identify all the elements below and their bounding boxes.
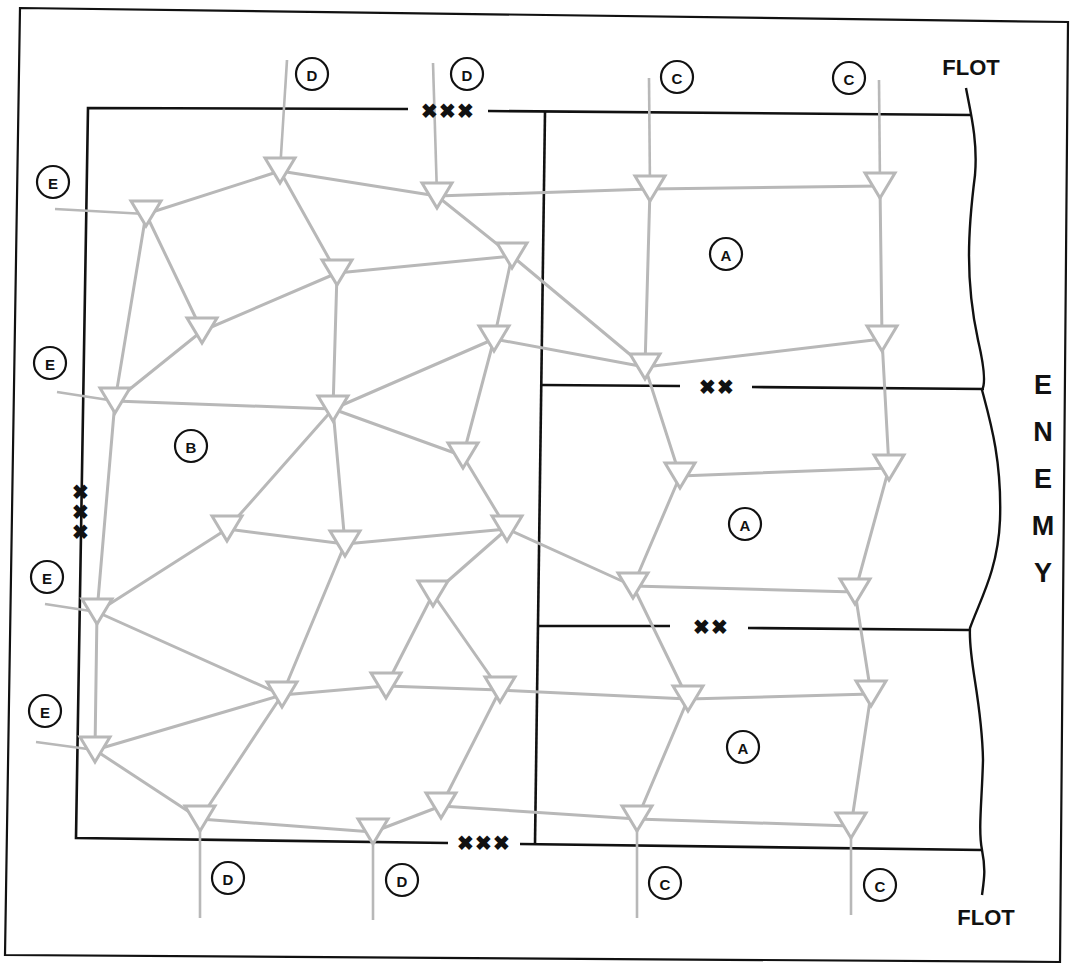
barrier-link [202, 273, 337, 331]
barrier-link [637, 699, 688, 819]
corps-boundary-top-right [488, 111, 972, 115]
barrier-link [333, 273, 337, 409]
barrier-link [333, 409, 463, 456]
barrier-link [282, 686, 386, 695]
barrier-link [97, 612, 282, 695]
callout-d: D [212, 862, 244, 894]
barrier-link [512, 256, 645, 367]
enemy-label: E N E M Y [1032, 370, 1055, 588]
callout-e: E [31, 561, 63, 593]
barrier-link [282, 544, 345, 695]
division-boundary-upper-left [542, 385, 680, 386]
barrier-link [645, 367, 680, 476]
obstacle-triangle-icon [448, 443, 478, 468]
enemy-letter: E [1034, 464, 1052, 494]
callout-letter: C [672, 70, 683, 87]
barrier-link [337, 256, 512, 273]
callout-letter: D [462, 67, 473, 84]
barrier-link [851, 694, 871, 826]
callout-letter: A [721, 247, 732, 264]
callout-letter: E [42, 570, 52, 587]
barrier-network-links [95, 171, 889, 832]
barrier-link [680, 468, 889, 476]
callout-letter: E [45, 356, 55, 373]
callout-a: A [729, 508, 761, 540]
barrier-link [441, 806, 637, 819]
echelon-marker-x: ✖ [72, 521, 90, 543]
callout-letter: D [397, 873, 408, 890]
barrier-link [95, 750, 200, 819]
barrier-link [146, 214, 202, 331]
callout-c: C [649, 867, 681, 899]
barrier-link [633, 586, 688, 699]
corps-boundary-top-left [76, 108, 448, 843]
barrier-link [463, 339, 494, 456]
approach-route-line [879, 80, 880, 186]
obstacle-triangle-icon [418, 581, 448, 606]
callout-letter: D [307, 67, 318, 84]
barrier-link [227, 409, 333, 529]
flot-label-bottom: FLOT [957, 905, 1015, 930]
barrier-link [645, 189, 650, 367]
division-rear-boundary [535, 112, 545, 844]
callout-letter: A [740, 517, 751, 534]
callout-letter: A [738, 740, 749, 757]
callout-letter: C [660, 876, 671, 893]
barrier-link [95, 695, 282, 750]
barrier-link [97, 401, 115, 612]
enemy-letter: Y [1034, 558, 1052, 588]
callout-a: A [710, 238, 742, 270]
callout-a: A [727, 731, 759, 763]
barrier-link [855, 592, 871, 694]
barrier-link [200, 695, 282, 819]
callout-letter: D [223, 871, 234, 888]
barrier-link [333, 409, 345, 544]
barrier-link [97, 529, 227, 612]
callout-b: B [175, 430, 207, 462]
callout-d: D [296, 58, 328, 90]
enemy-letter: N [1033, 417, 1053, 447]
barrier-link [507, 529, 633, 586]
enemy-letter: M [1032, 511, 1055, 541]
callout-d: D [386, 864, 418, 896]
echelon-marker-corps-bottom: ✖✖✖ [457, 832, 511, 854]
division-boundary-upper-right [752, 387, 984, 389]
barrier-plan-diagram: ✖✖✖✖✖✖✖✖✖✖✖✖✖ DDCCEEEEAAABDDCC FLOT FLOT… [0, 0, 1074, 974]
barrier-link [345, 529, 507, 544]
callout-e: E [29, 695, 61, 727]
barrier-link [650, 186, 880, 189]
approach-route-line [55, 209, 146, 214]
barrier-link [115, 214, 146, 401]
barrier-link [386, 686, 500, 690]
callout-letter: B [186, 439, 197, 456]
boundary-echelon-markers: ✖✖✖✖✖✖✖✖✖✖✖✖✖ [72, 100, 735, 854]
barrier-link [441, 690, 500, 806]
callout-letter: E [48, 175, 58, 192]
corps-boundary-bottom-right [520, 844, 982, 850]
callout-letter: C [875, 878, 886, 895]
barrier-link [882, 339, 889, 468]
callout-c: C [864, 869, 896, 901]
flot-line [966, 88, 1000, 895]
barrier-link [645, 339, 882, 367]
echelon-marker-division-lower: ✖✖ [693, 616, 729, 638]
flot-label-top: FLOT [942, 55, 1000, 80]
echelon-marker-division-upper: ✖✖ [699, 376, 735, 398]
barrier-link [200, 819, 373, 832]
echelon-marker-x: ✖ [72, 501, 90, 523]
barrier-link [280, 171, 437, 196]
approach-route-line [433, 63, 437, 196]
obstacle-triangle-icon [479, 326, 509, 351]
barrier-link [688, 694, 871, 699]
barrier-link [633, 476, 680, 586]
barrier-link [146, 171, 280, 214]
barrier-link [494, 339, 645, 367]
barrier-link [637, 819, 851, 826]
callout-letter: E [40, 704, 50, 721]
callout-c: C [833, 62, 865, 94]
callout-e: E [37, 166, 69, 198]
barrier-link [333, 339, 494, 409]
enemy-letter: E [1034, 370, 1052, 400]
barrier-link [95, 612, 97, 750]
barrier-link [633, 586, 855, 592]
